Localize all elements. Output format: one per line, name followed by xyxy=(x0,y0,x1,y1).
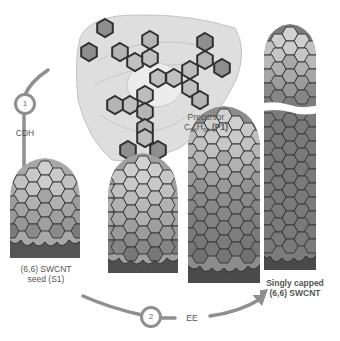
step2-badge: 2 xyxy=(140,306,162,328)
swcnt-seed xyxy=(3,150,88,278)
precursor-formula: C96H54 (P1) xyxy=(176,122,236,135)
swcnt-singly-capped xyxy=(258,20,322,282)
precursor-label: Precursor C96H54 (P1) xyxy=(176,112,236,135)
product-label: Singly capped (6,6) SWCNT xyxy=(260,278,330,298)
step2-label: EE xyxy=(180,313,204,323)
step2-arrow xyxy=(83,296,262,318)
seed-label: (6,6) SWCNT seed (S1) xyxy=(10,264,82,284)
step1-badge: 1 xyxy=(14,93,36,115)
step1-label: CDH xyxy=(10,128,40,138)
precursor-id: (P1) xyxy=(212,122,228,132)
swcnt-growing-1 xyxy=(101,150,185,288)
precursor-name: Precursor xyxy=(176,112,236,122)
